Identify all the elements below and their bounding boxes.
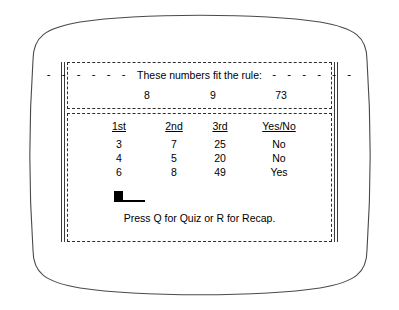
prompt-text: Press Q for Quiz or R for Recap. (68, 212, 331, 224)
cell-2nd: 5 (154, 152, 194, 164)
cell-2nd: 8 (154, 166, 194, 178)
column-header-3rd: 3rd (200, 120, 240, 132)
cell-yes-no: Yes (259, 166, 299, 178)
column-header-2nd: 2nd (154, 120, 194, 132)
results-table: 1st 2nd 3rd Yes/No 3 7 25 No 4 5 20 No 6… (68, 120, 331, 180)
table-header-row: 1st 2nd 3rd Yes/No (68, 120, 331, 138)
cell-yes-no: No (259, 138, 299, 150)
screen-content-area: - - - - - - These numbers fit the rule: … (61, 62, 338, 242)
table-row: 4 5 20 No (68, 152, 331, 166)
banner-text: These numbers fit the rule: (137, 69, 262, 81)
cell-yes-no: No (259, 152, 299, 164)
screen-right-rail (334, 62, 338, 242)
rule-number-2: 9 (196, 89, 230, 101)
cell-1st: 3 (99, 138, 139, 150)
column-header-yes-no: Yes/No (259, 120, 299, 132)
screen-left-rail (61, 62, 65, 242)
table-row: 3 7 25 No (68, 138, 331, 152)
cell-3rd: 25 (200, 138, 240, 150)
cell-1st: 6 (99, 166, 139, 178)
cell-1st: 4 (99, 152, 139, 164)
cell-3rd: 49 (200, 166, 240, 178)
column-header-1st: 1st (99, 120, 139, 132)
text-cursor[interactable] (114, 190, 145, 202)
banner-dashes-right: - - - - - - (271, 69, 354, 81)
cursor-underline (123, 200, 145, 202)
cell-3rd: 20 (200, 152, 240, 164)
rule-panel: - - - - - - These numbers fit the rule: … (67, 62, 332, 109)
table-row: 6 8 49 Yes (68, 166, 331, 180)
banner-dashes-left: - - - - - - (46, 69, 129, 81)
block-cursor-icon (114, 191, 123, 202)
rule-number-1: 8 (130, 89, 164, 101)
rule-banner: - - - - - - These numbers fit the rule: … (68, 69, 331, 81)
table-panel: 1st 2nd 3rd Yes/No 3 7 25 No 4 5 20 No 6… (67, 113, 332, 242)
cell-2nd: 7 (154, 138, 194, 150)
rule-number-3: 73 (264, 89, 298, 101)
